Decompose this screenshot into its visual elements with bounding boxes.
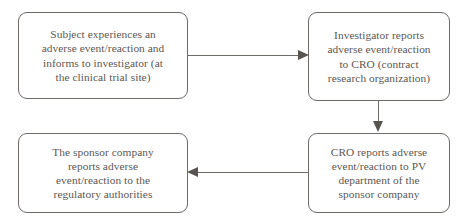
connector-subject-to-investigator [188,55,300,56]
arrowhead-down-icon [373,121,383,132]
connector-investigator-to-cro [378,101,379,122]
flow-node-subject-label: Subject experiences an adverse event/rea… [42,27,165,84]
flow-node-cro-label: CRO reports adverse event/reaction to PV… [331,145,427,202]
arrowhead-left-icon [187,167,198,177]
flow-node-investigator[interactable]: Investigator reports adverse event/react… [308,12,450,101]
flow-node-cro[interactable]: CRO reports adverse event/reaction to PV… [308,133,450,213]
flow-node-subject[interactable]: Subject experiences an adverse event/rea… [18,12,188,99]
arrowhead-right-icon [298,50,309,60]
flow-node-sponsor-label: The sponsor company reports adverse even… [52,145,154,202]
flow-node-investigator-label: Investigator reports adverse event/react… [327,28,430,85]
flow-node-sponsor[interactable]: The sponsor company reports adverse even… [18,133,188,213]
flowchart-canvas: Subject experiences an adverse event/rea… [0,0,464,221]
connector-cro-to-sponsor [198,172,308,173]
